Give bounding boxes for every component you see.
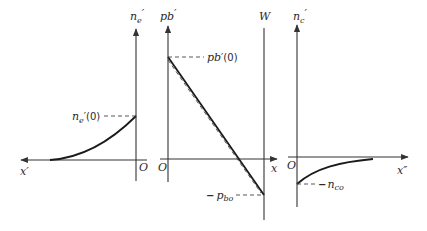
electron-curve <box>50 116 136 160</box>
origin-label-1: O <box>139 161 148 174</box>
hole-profile-dashed <box>168 60 261 193</box>
base-panel: pb′ W pb′(0) −pbo O x <box>158 7 278 220</box>
origin-label-2: O <box>158 161 167 174</box>
x-double-prime-label: x″ <box>397 164 408 177</box>
pb0-label: pb′(0) <box>207 51 238 64</box>
w-label: W <box>259 10 272 23</box>
x-label: x <box>271 162 278 175</box>
hole-profile-line <box>168 57 264 195</box>
origin-label-3: O <box>287 159 296 172</box>
x-prime-label: x′ <box>20 165 29 178</box>
ne-axis-label: ne′ <box>130 7 145 25</box>
electron-panel: ne′ ne′(0) x′ O <box>20 7 148 181</box>
collector-curve <box>297 159 373 184</box>
minority-carrier-diagram: ne′ ne′(0) x′ O pb′ W pb′(0) −pbo O <box>0 0 427 231</box>
ne0-label: ne′(0) <box>72 110 100 125</box>
pb-axis-label: pb′ <box>160 7 177 23</box>
pbo-label: −pbo <box>206 189 234 203</box>
collector-panel: nc′ −nco O x″ <box>287 7 408 207</box>
nc-axis-label: nc′ <box>293 7 308 25</box>
nco-label: −nco <box>318 178 344 192</box>
